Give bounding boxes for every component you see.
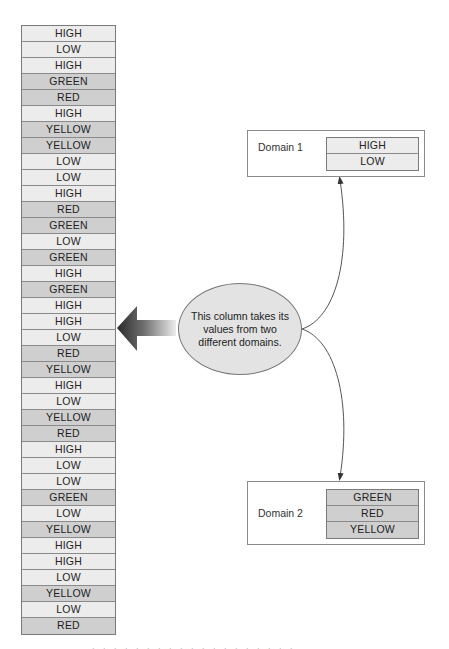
column-cell: RED <box>22 618 115 634</box>
domain-1-label: Domain 1 <box>258 141 303 153</box>
column-cell: YELLOW <box>22 410 115 426</box>
column-cell: HIGH <box>22 26 115 42</box>
domain-2-values: GREEN RED YELLOW <box>326 489 419 539</box>
column-cell: HIGH <box>22 106 115 122</box>
domain-1-values: HIGH LOW <box>326 137 419 171</box>
column-cell: HIGH <box>22 538 115 554</box>
domain-2-value: YELLOW <box>327 522 418 538</box>
domain-1-value: HIGH <box>327 138 418 154</box>
column-cell: LOW <box>22 330 115 346</box>
column-cell: YELLOW <box>22 522 115 538</box>
column-cell: GREEN <box>22 282 115 298</box>
domain-2-box: Domain 2 GREEN RED YELLOW <box>247 481 425 545</box>
column-cell: YELLOW <box>22 362 115 378</box>
column-cell: GREEN <box>22 74 115 90</box>
connector-to-domain-2 <box>302 329 344 477</box>
domain-1-box: Domain 1 HIGH LOW <box>247 130 425 177</box>
column-cell: LOW <box>22 506 115 522</box>
column-cell: HIGH <box>22 442 115 458</box>
left-arrow-icon <box>117 306 176 351</box>
domain-2-label: Domain 2 <box>258 507 303 519</box>
column-cell: RED <box>22 426 115 442</box>
value-column: HIGHLOWHIGHGREENREDHIGHYELLOWYELLOWLOWLO… <box>21 25 116 635</box>
column-cell: GREEN <box>22 250 115 266</box>
callout-text: This column takes its values from two di… <box>189 310 291 349</box>
callout-ellipse: This column takes its values from two di… <box>178 283 302 375</box>
column-cell: HIGH <box>22 554 115 570</box>
column-cell: LOW <box>22 394 115 410</box>
column-cell: LOW <box>22 42 115 58</box>
column-cell: YELLOW <box>22 138 115 154</box>
column-cell: YELLOW <box>22 122 115 138</box>
column-cell: RED <box>22 90 115 106</box>
column-cell: RED <box>22 202 115 218</box>
figure-caption-clipped: . . . . . . . . . . . . . . . . . . . <box>92 641 296 649</box>
domain-2-value: GREEN <box>327 490 418 506</box>
column-cell: RED <box>22 346 115 362</box>
column-cell: HIGH <box>22 314 115 330</box>
column-cell: HIGH <box>22 58 115 74</box>
column-cell: LOW <box>22 474 115 490</box>
column-cell: LOW <box>22 458 115 474</box>
column-cell: YELLOW <box>22 586 115 602</box>
column-cell: LOW <box>22 602 115 618</box>
column-cell: LOW <box>22 234 115 250</box>
column-cell: LOW <box>22 170 115 186</box>
column-cell: LOW <box>22 570 115 586</box>
domain-2-value: RED <box>327 506 418 522</box>
column-cell: LOW <box>22 154 115 170</box>
column-cell: GREEN <box>22 218 115 234</box>
connector-to-domain-1 <box>302 180 344 329</box>
column-cell: HIGH <box>22 378 115 394</box>
column-cell: HIGH <box>22 266 115 282</box>
column-cell: GREEN <box>22 490 115 506</box>
column-cell: HIGH <box>22 298 115 314</box>
column-cell: HIGH <box>22 186 115 202</box>
domain-1-value: LOW <box>327 154 418 170</box>
